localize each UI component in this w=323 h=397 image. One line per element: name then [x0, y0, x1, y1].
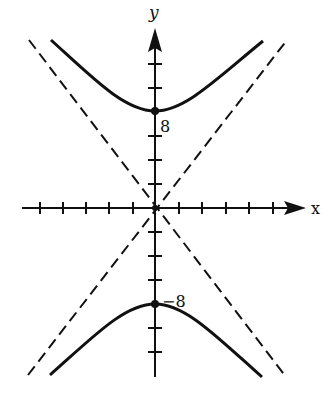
vertex-lower-label: −8 [162, 292, 186, 311]
origin-point [152, 205, 158, 211]
hyperbola-upper-branch [51, 40, 263, 111]
hyperbola-diagram: x y 8 −8 [0, 0, 323, 397]
vertex-upper-label: 8 [160, 117, 170, 136]
y-axis-label: y [148, 2, 159, 22]
vertex-upper-point [151, 107, 159, 115]
x-axis-label: x [311, 199, 320, 218]
vertex-lower-point [151, 300, 159, 308]
